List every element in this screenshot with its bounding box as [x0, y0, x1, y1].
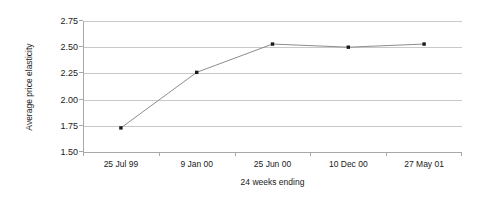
x-axis-tick-label: 27 May 01	[384, 158, 464, 170]
y-axis-tick-label: 2.50	[42, 42, 78, 52]
data-point-marker	[195, 71, 198, 74]
y-axis-title: Average price elasticity	[22, 12, 36, 162]
x-axis-tick-mark	[386, 152, 387, 156]
x-axis-tick-label: 9 Jan 00	[157, 158, 237, 170]
x-axis-tick-marks	[83, 152, 462, 157]
y-axis-tick-label: 2.75	[42, 16, 78, 26]
x-axis-tick-mark	[310, 152, 311, 156]
y-axis-tick-label: 1.75	[42, 121, 78, 131]
y-axis-tick-label: 2.00	[42, 95, 78, 105]
data-point-marker	[422, 42, 425, 45]
series-line	[121, 44, 424, 128]
x-axis-tick-mark	[235, 152, 236, 156]
x-axis-tick-labels: 25 Jul 999 Jan 0025 Jun 0010 Dec 0027 Ma…	[83, 158, 462, 172]
data-point-marker	[347, 46, 350, 49]
data-point-marker	[119, 126, 122, 129]
x-axis-title: 24 weeks ending	[83, 176, 462, 188]
x-axis-tick-label: 25 Jul 99	[81, 158, 161, 170]
x-axis-tick-label: 10 Dec 00	[308, 158, 388, 170]
x-axis-tick-mark	[461, 152, 462, 156]
x-axis-tick-mark	[159, 152, 160, 156]
x-axis-tick-label: 25 Jun 00	[233, 158, 313, 170]
x-axis-tick-mark	[83, 152, 84, 156]
y-axis-tick-label: 1.50	[42, 147, 78, 157]
y-axis-tick-labels: 1.501.752.002.252.502.75	[38, 0, 78, 198]
data-point-marker	[271, 42, 274, 45]
chart-container: Average price elasticity 1.501.752.002.2…	[0, 0, 480, 198]
data-series-line	[83, 21, 462, 152]
y-axis-tick-label: 2.25	[42, 68, 78, 78]
